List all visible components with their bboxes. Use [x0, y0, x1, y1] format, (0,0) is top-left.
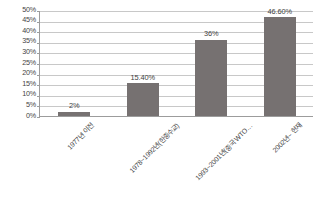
x-axis-category-slot: 2002년~ 현재 [245, 118, 314, 204]
bar[interactable] [264, 17, 296, 116]
bars-group: 2%15.40%36%46.60% [40, 11, 313, 116]
y-axis-tick-label: 0% [0, 112, 36, 119]
y-axis-tick-label: 45% [0, 16, 36, 23]
bar-value-label: 36% [204, 30, 219, 38]
bar-slot: 46.60% [246, 11, 315, 116]
x-axis-tick-label: 1977년 이전 [66, 122, 96, 152]
y-axis-tick-label: 50% [0, 6, 36, 13]
y-axis-tick-label: 5% [0, 101, 36, 108]
x-axis-category-slot: 1993~2001년(중국 WTO… [176, 118, 245, 204]
bar-slot: 15.40% [109, 11, 178, 116]
bar-chart: 50%45%40%35%30%25%20%15%10%5%0% 2%15.40%… [0, 0, 333, 205]
x-axis: 1977년 이전1978~1992년(한중수교)1993~2001년(중국 WT… [39, 118, 313, 204]
bar-value-label: 15.40% [131, 74, 155, 82]
bar-slot: 36% [177, 11, 246, 116]
bar-slot: 2% [40, 11, 109, 116]
x-axis-category-slot: 1978~1992년(한중수교) [108, 118, 177, 204]
bar[interactable] [58, 112, 90, 116]
y-axis-tick-label: 35% [0, 37, 36, 44]
y-axis-tick-label: 20% [0, 69, 36, 76]
bar-value-label: 2% [69, 102, 79, 110]
y-axis: 50%45%40%35%30%25%20%15%10%5%0% [0, 9, 38, 119]
y-axis-tick-label: 30% [0, 48, 36, 55]
y-axis-tick-label: 25% [0, 59, 36, 66]
bar[interactable] [127, 83, 159, 116]
y-axis-tick-label: 15% [0, 80, 36, 87]
x-axis-tick-label: 2002년~ 현재 [271, 122, 303, 154]
y-axis-tick-label: 40% [0, 27, 36, 34]
x-axis-category-slot: 1977년 이전 [39, 118, 108, 204]
plot-area: 2%15.40%36%46.60% [39, 11, 313, 117]
x-axis-tick-label: 1978~1992년(한중수교) [128, 122, 181, 175]
bar-value-label: 46.60% [268, 8, 292, 16]
y-axis-tick-label: 10% [0, 90, 36, 97]
bar[interactable] [195, 40, 227, 116]
